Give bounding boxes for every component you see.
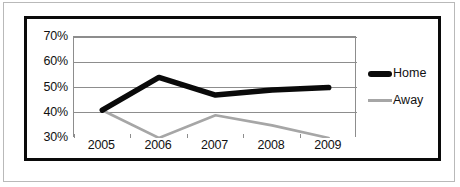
- x-axis-tick-label: 2006: [144, 139, 171, 152]
- line-chart: 70%60%50%40%30% 20052006200720082009 Hom…: [27, 19, 438, 158]
- figure-outer-border: 70%60%50%40%30% 20052006200720082009 Hom…: [3, 2, 455, 182]
- chart-legend: HomeAway: [368, 60, 436, 114]
- legend-label: Away: [393, 94, 423, 107]
- y-axis-tick-label: 50%: [44, 81, 68, 94]
- x-axis-tick-label: 2005: [88, 139, 115, 152]
- series-line-home: [102, 77, 328, 110]
- series-line-away: [102, 110, 328, 138]
- y-axis-tick-label: 70%: [44, 30, 68, 43]
- x-axis-tick-label: 2008: [258, 139, 285, 152]
- y-axis-tick-label: 40%: [44, 106, 68, 119]
- y-axis-tick-label: 30%: [44, 131, 68, 144]
- thin-gray-line-swatch: [368, 99, 392, 102]
- y-axis: 70%60%50%40%30%: [27, 19, 71, 158]
- series-layer: [102, 77, 328, 138]
- legend-item-away[interactable]: Away: [368, 87, 436, 114]
- x-axis: 20052006200720082009: [73, 139, 356, 157]
- thick-black-line-swatch: [368, 71, 392, 77]
- plot-area: [73, 36, 356, 137]
- chart-frame: 70%60%50%40%30% 20052006200720082009 Hom…: [24, 16, 441, 161]
- legend-item-home[interactable]: Home: [368, 60, 436, 87]
- legend-label: Home: [393, 67, 426, 80]
- plot-svg: [74, 37, 357, 138]
- x-axis-tick-label: 2007: [201, 139, 228, 152]
- x-axis-tick-label: 2009: [314, 139, 341, 152]
- y-axis-tick-label: 60%: [44, 55, 68, 68]
